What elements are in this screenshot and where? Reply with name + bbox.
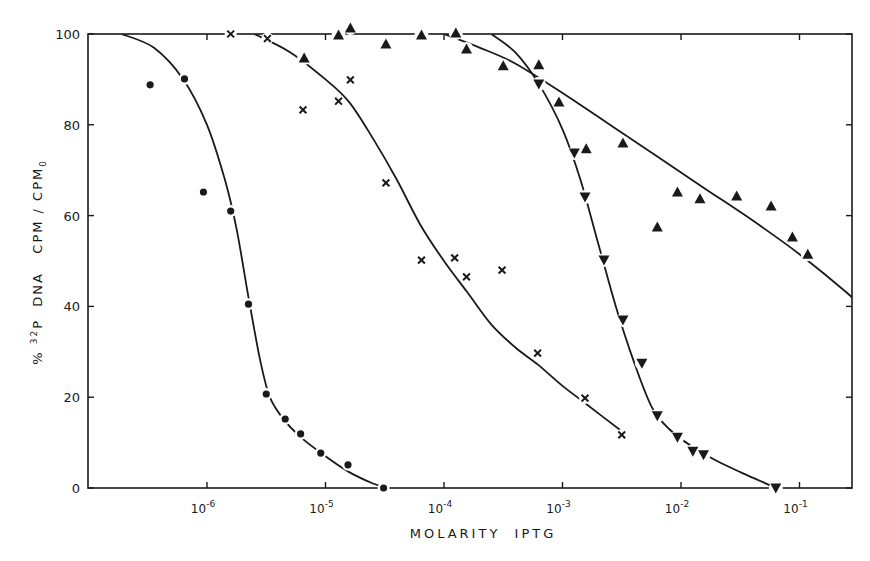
circle-marker [344,461,351,468]
y-label-prefix: % [30,344,45,365]
dose-response-chart: 10-610-510-410-310-210-1 020406080100 MO… [0,0,870,561]
x-tick-label: 10-1 [783,499,807,516]
y-label-sub: 0 [38,159,48,167]
circle-marker [282,415,289,422]
x-tick-label: 10-3 [546,499,570,516]
y-label-sup: 32 [29,329,39,344]
y-tick-label: 60 [63,209,80,224]
svg-text:% 32P DNA CPM / CPM0: % 32P DNA CPM / CPM0 [29,128,49,407]
plot-border [88,34,852,488]
circle-marker [200,188,207,195]
curve-circles [122,34,387,488]
y-axis-label: % 32P DNA CPM / CPM0 [29,128,49,407]
y-tick-label: 100 [55,27,80,42]
circle-marker [147,81,154,88]
plot-frame [88,34,852,488]
circle-marker [227,207,234,214]
x-tick-label: 10-5 [309,499,333,516]
x-tick-label: 10-2 [665,499,689,516]
x-tick-label: 10-4 [428,499,453,516]
y-tick-label: 20 [63,390,80,405]
data-markers [144,21,815,495]
y-label-mid: P DNA CPM / CPM [30,167,45,329]
circle-marker [380,484,387,491]
circle-marker [317,449,324,456]
circle-marker [181,75,188,82]
curve-crosses [254,34,621,431]
x-axis-label: MOLARITY IPTG [410,526,557,541]
curve-inverted-triangles [491,34,775,488]
y-tick-label: 40 [63,299,80,314]
curve-upright-triangles [444,34,853,300]
x-tick-label: 10-6 [191,499,216,516]
fitted-curves [122,34,853,488]
circle-marker [245,301,252,308]
y-tick-label: 80 [63,118,80,133]
circle-marker [263,390,270,397]
y-tick-label: 0 [72,481,80,496]
circle-marker [297,430,304,437]
